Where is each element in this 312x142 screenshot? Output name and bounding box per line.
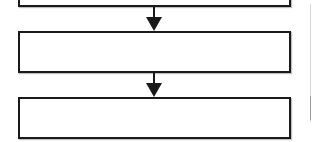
flowchart-step-2-box	[18, 31, 291, 73]
arrow-2-shape	[145, 73, 163, 97]
flowchart-step-3-box	[18, 97, 291, 139]
arrow-1-shape	[145, 7, 163, 31]
flowchart-step-1-box	[18, 0, 291, 7]
side-divider-line-dark-segment	[310, 96, 311, 120]
down-arrow-icon	[145, 7, 163, 31]
down-arrow-icon	[145, 73, 163, 97]
